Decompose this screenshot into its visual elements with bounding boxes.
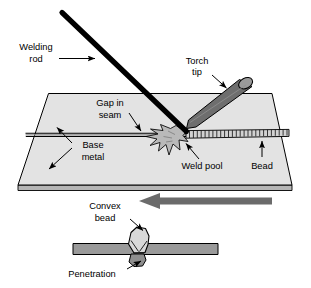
plate-surface xyxy=(18,94,292,186)
label-weld-pool: Weld pool xyxy=(181,161,222,171)
weld-bead xyxy=(186,129,289,138)
label-convex-bead-line1: Convex xyxy=(89,201,121,211)
label-torch-tip-line2: tip xyxy=(192,67,202,77)
section-convex-bead xyxy=(129,227,150,253)
label-gap-in-seam-line1: Gap in xyxy=(96,98,123,108)
label-base-metal-line1: Base xyxy=(82,140,103,150)
leader-torch-tip xyxy=(212,75,227,88)
plate-edge-band xyxy=(18,185,292,191)
section-penetration xyxy=(129,254,146,267)
label-bead: Bead xyxy=(251,161,273,171)
diagram-canvas: Welding rod Torch tip Gap in seam Base m… xyxy=(0,0,311,288)
label-gap-in-seam-line2: seam xyxy=(99,110,122,120)
label-convex-bead-line2: bead xyxy=(95,213,116,223)
welding-diagram: Welding rod Torch tip Gap in seam Base m… xyxy=(0,0,311,288)
label-torch-tip-line1: Torch xyxy=(186,56,209,66)
weld-cross-section-icon xyxy=(73,227,218,267)
label-welding-rod-line1: Welding xyxy=(19,42,52,52)
label-base-metal-line2: metal xyxy=(82,152,105,162)
label-welding-rod-line2: rod xyxy=(29,54,42,64)
travel-direction-arrow-icon xyxy=(139,193,272,209)
label-penetration: Penetration xyxy=(68,269,116,279)
